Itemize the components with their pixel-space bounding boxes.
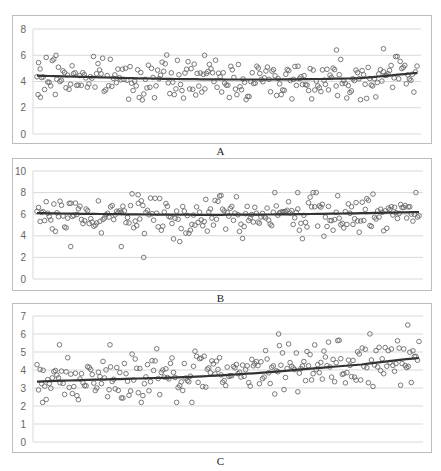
y-tick-label: 2 — [20, 102, 26, 113]
y-tick-label: 5 — [20, 347, 26, 358]
y-tick-label: 6 — [20, 209, 26, 220]
y-tick-label: 6 — [20, 329, 26, 340]
y-tick-label: 0 — [20, 129, 26, 140]
y-tick-label: 4 — [20, 230, 26, 241]
y-tick-label: 4 — [20, 365, 26, 376]
y-tick-label: 3 — [20, 383, 26, 394]
chart-panel-b: 0246810 — [12, 158, 432, 291]
y-tick-label: 2 — [20, 401, 26, 412]
y-tick-label: 0 — [20, 274, 26, 285]
y-tick-label: 8 — [20, 187, 26, 198]
panel-label-c: C — [0, 455, 441, 467]
y-tick-label: 7 — [20, 311, 26, 322]
y-tick-label: 10 — [15, 166, 27, 177]
scatter-plot-b: 0246810 — [13, 159, 433, 292]
y-tick-label: 0 — [20, 437, 26, 448]
y-tick-label: 4 — [20, 76, 26, 87]
scatter-plot-a: 02468 — [13, 16, 433, 145]
y-tick-label: 8 — [20, 24, 26, 35]
chart-panel-c: 01234567 — [12, 303, 432, 453]
y-tick-label: 1 — [20, 419, 26, 430]
scatter-plot-c: 01234567 — [13, 304, 433, 454]
y-tick-label: 6 — [20, 50, 26, 61]
panel-label-a: A — [0, 145, 441, 157]
chart-panel-a: 02468 — [12, 15, 432, 144]
y-tick-label: 2 — [20, 252, 26, 263]
data-points — [35, 190, 422, 259]
